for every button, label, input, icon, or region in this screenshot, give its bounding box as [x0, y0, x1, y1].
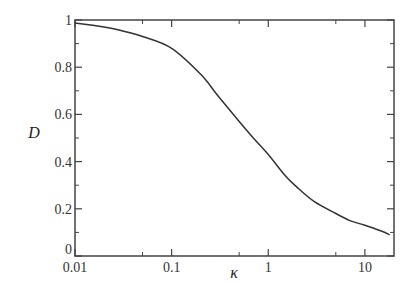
line-chart: 0.010.1110 00.20.40.60.81 κ D — [0, 0, 413, 282]
y-tick-label: 0 — [65, 242, 72, 257]
x-tick-label: 1 — [265, 260, 272, 275]
y-axis-ticks: 00.20.40.60.81 — [55, 13, 395, 257]
y-tick-label: 0.6 — [55, 107, 73, 122]
x-axis-ticks: 0.010.1110 — [63, 20, 372, 275]
y-tick-label: 0.4 — [55, 155, 73, 170]
plot-frame — [75, 20, 394, 256]
data-line — [75, 23, 390, 235]
x-axis-label: κ — [230, 264, 238, 281]
y-tick-label: 0.8 — [55, 60, 73, 75]
x-tick-label: 0.01 — [63, 260, 88, 275]
x-tick-label: 10 — [358, 260, 372, 275]
y-tick-label: 1 — [65, 13, 72, 28]
y-tick-label: 0.2 — [55, 202, 73, 217]
x-tick-label: 0.1 — [163, 260, 181, 275]
y-axis-label: D — [27, 124, 40, 141]
